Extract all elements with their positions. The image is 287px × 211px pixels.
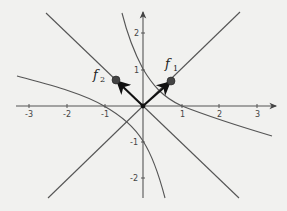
label-f1-subscript: 1	[173, 64, 178, 73]
x-tick-label: -3	[25, 110, 33, 119]
x-tick-label: -2	[63, 110, 71, 119]
x-tick-label: 2	[217, 110, 222, 119]
label-f1: f	[164, 56, 172, 71]
curve-upper-right-branch	[122, 13, 272, 136]
y-tick-label: 1	[134, 66, 139, 75]
x-tick-label: 1	[180, 110, 185, 119]
origin-point	[141, 104, 146, 109]
y-tick-label: 2	[134, 29, 139, 38]
vector-f2	[119, 83, 143, 106]
coordinate-plane: -3 -2 -1 1 2 3 2 1 -1 -2 f 1 f 2	[0, 0, 287, 211]
y-tick-label: -2	[130, 174, 138, 183]
point-f1	[167, 77, 175, 85]
label-f2: f	[92, 67, 100, 82]
x-tick-label: -1	[101, 110, 109, 119]
label-f2-subscript: 2	[100, 75, 105, 84]
point-f2	[112, 76, 120, 84]
diagram: -3 -2 -1 1 2 3 2 1 -1 -2 f 1 f 2	[0, 0, 287, 211]
x-tick-label: 3	[255, 110, 260, 119]
y-tick-label: -1	[130, 138, 138, 147]
